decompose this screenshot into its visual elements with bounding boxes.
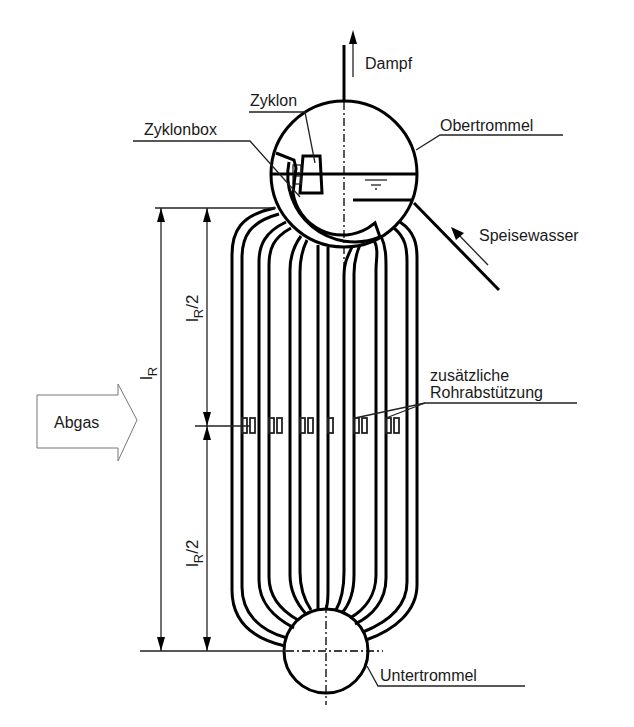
label-untertrommel: Untertrommel bbox=[380, 667, 477, 684]
dimension-lines bbox=[140, 208, 286, 651]
label-speisewasser: Speisewasser bbox=[479, 227, 579, 244]
svg-text:lR/2: lR/2 bbox=[183, 540, 206, 567]
label-lr: lR bbox=[137, 367, 160, 380]
label-zyklon: Zyklon bbox=[250, 92, 297, 109]
label-rohrabstuetzung: Rohrabstützung bbox=[430, 384, 543, 401]
label-zusaetzliche: zusätzliche bbox=[430, 367, 509, 384]
label-obertrommel: Obertrommel bbox=[440, 117, 533, 134]
label-lr-half-bottom: lR/2 bbox=[183, 540, 206, 567]
boiler-diagram: Dampf Speisewasser Zyklon Zyklonbox Ober… bbox=[0, 0, 634, 727]
steam-outlet bbox=[344, 30, 357, 101]
label-lr-half-top: lR/2 bbox=[183, 295, 206, 322]
svg-text:lR: lR bbox=[137, 367, 160, 380]
svg-text:lR/2: lR/2 bbox=[183, 295, 206, 322]
lower-drum bbox=[284, 605, 383, 705]
upper-drum bbox=[271, 101, 417, 290]
label-abgas: Abgas bbox=[54, 414, 99, 431]
label-zyklonbox: Zyklonbox bbox=[144, 121, 217, 138]
label-dampf: Dampf bbox=[365, 55, 413, 72]
steam-arrow-icon bbox=[349, 30, 357, 44]
tube-bank bbox=[232, 208, 417, 646]
feedwater-pipe bbox=[414, 203, 499, 290]
